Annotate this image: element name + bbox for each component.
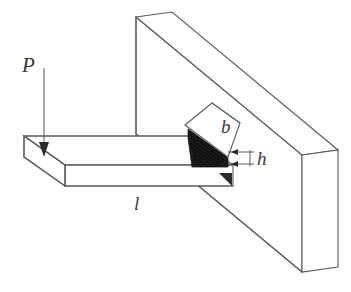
wall-right-face [302,150,338,272]
cantilever-beam-diagram: b h P l [0,0,351,292]
figure-root: b h P l [0,0,351,292]
beam-front-face [65,165,233,186]
label-l: l [134,193,139,214]
label-P: P [21,53,35,77]
label-b: b [221,116,231,137]
length-dimension-group: l [134,193,139,214]
label-h: h [257,148,267,169]
